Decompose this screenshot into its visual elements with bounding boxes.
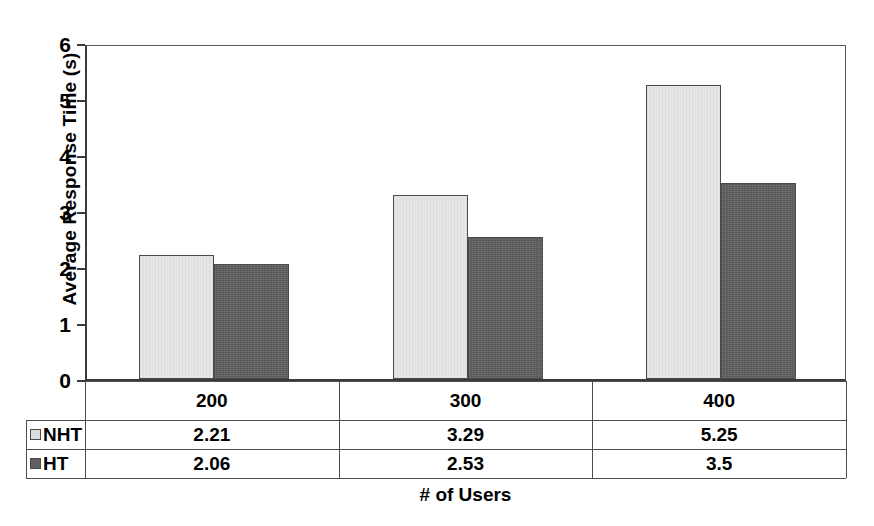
bar-nht-300 [393, 195, 468, 379]
legend-label: NHT [43, 424, 82, 446]
x-axis-title: # of Users [85, 484, 846, 506]
bar-ht-400 [721, 183, 796, 379]
bar-ht-200 [214, 264, 289, 379]
y-axis-tick-mark [77, 100, 85, 102]
table-value-nht-300: 3.29 [339, 420, 593, 449]
bar-ht-300 [468, 237, 543, 379]
data-table: 200300400NHT2.213.295.25HT2.062.533.5 [26, 381, 846, 478]
y-axis-tick-mark [77, 156, 85, 158]
y-axis-tick-label: 3 [59, 200, 71, 225]
bar-nht-200 [139, 255, 214, 379]
legend-swatch-ht-icon [30, 458, 41, 469]
table-value-ht-200: 2.06 [85, 449, 339, 478]
y-axis-tick-mark [77, 212, 85, 214]
table-value-ht-300: 2.53 [339, 449, 593, 478]
table-category-200: 200 [85, 381, 339, 420]
plot-area [85, 45, 846, 381]
y-axis-tick-mark [77, 268, 85, 270]
y-axis-tick-label: 2 [59, 256, 71, 281]
y-axis-tick-label: 5 [59, 88, 71, 113]
y-axis-tick-mark [77, 44, 85, 46]
bar-nht-400 [646, 85, 721, 379]
table-value-nht-200: 2.21 [85, 420, 339, 449]
table-category-400: 400 [592, 381, 846, 420]
bar-chart-figure: Average Response Time (s) 0123456 200300… [0, 0, 874, 526]
legend-swatch-nht-icon [30, 429, 41, 440]
table-value-ht-400: 3.5 [592, 449, 846, 478]
table-row-divider [26, 478, 846, 479]
table-value-nht-400: 5.25 [592, 420, 846, 449]
y-axis-tick-label: 4 [59, 144, 71, 169]
table-column-divider [846, 381, 847, 478]
legend-label: HT [43, 453, 68, 475]
y-axis-tick-label: 1 [59, 312, 71, 337]
y-axis-tick-mark [77, 324, 85, 326]
y-axis-tick-label: 6 [59, 32, 71, 57]
legend-entry-nht: NHT [26, 420, 89, 449]
table-category-300: 300 [339, 381, 593, 420]
legend-entry-ht: HT [26, 449, 89, 478]
